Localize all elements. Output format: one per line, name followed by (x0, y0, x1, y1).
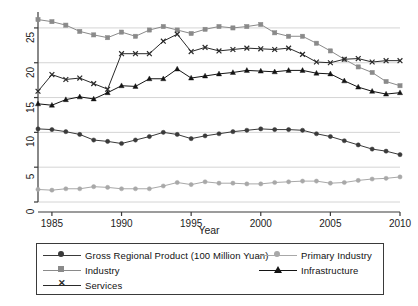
legend-item-right-1[interactable]: Infrastructure (259, 263, 379, 278)
series-3 (36, 175, 402, 192)
legend-key: ✕ (43, 280, 81, 291)
legend-key (259, 250, 297, 261)
chart-figure: 0510152025 198519901995200020052010 Year… (0, 0, 418, 306)
legend-key (43, 250, 81, 261)
legend-key (43, 265, 81, 276)
y-tick-label-20: 20 (25, 61, 36, 83)
legend-marker-circle (58, 251, 64, 257)
legend-item-left-2[interactable]: ✕ Services (43, 278, 257, 293)
legend-item-left-0[interactable]: Gross Regional Product (100 Million Yuan… (43, 248, 257, 263)
legend-item-label: Infrastructure (297, 265, 358, 276)
legend-marker-square (58, 266, 64, 272)
legend-item-label: Gross Regional Product (100 Million Yuan… (81, 250, 268, 261)
legend-marker-x: ✕ (58, 280, 66, 287)
series-4 (35, 66, 402, 107)
y-tick-label-15: 15 (25, 96, 36, 118)
legend-item-right-0[interactable]: Primary Industry (259, 248, 379, 263)
series-0 (36, 127, 402, 157)
x-axis-title: Year (0, 224, 418, 236)
legend-item-label: Services (81, 280, 122, 291)
y-tick-label-5: 5 (25, 166, 36, 188)
legend-marker-triangle (274, 266, 282, 273)
gridlines (38, 28, 400, 202)
legend-item-label: Primary Industry (297, 250, 372, 261)
series-layer (35, 17, 402, 192)
legend-item-label: Industry (81, 265, 120, 276)
chart-legend: Gross Regional Product (100 Million Yuan… (36, 243, 384, 295)
y-tick-label-10: 10 (25, 131, 36, 153)
legend-column-right: Primary Industry Infrastructure (259, 248, 379, 278)
legend-marker-circle (274, 251, 280, 257)
y-tick-label-25: 25 (25, 26, 36, 48)
legend-key (259, 265, 297, 276)
legend-item-left-1[interactable]: Industry (43, 263, 257, 278)
legend-column-left: Gross Regional Product (100 Million Yuan… (43, 248, 257, 293)
